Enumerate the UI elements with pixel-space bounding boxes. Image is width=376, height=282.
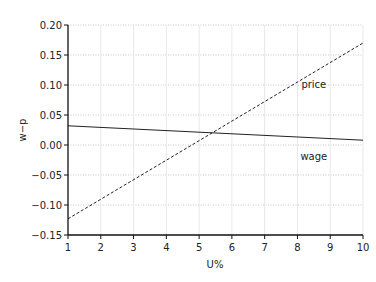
- x-ticks: 12345678910: [65, 235, 370, 253]
- y-tick-label: 0.20: [40, 20, 62, 31]
- y-tick-label: −0.05: [31, 170, 62, 181]
- gridlines: [68, 25, 363, 235]
- x-tick-label: 3: [130, 242, 136, 253]
- series-wage-line: [68, 126, 363, 140]
- x-tick-label: 9: [327, 242, 333, 253]
- y-ticks: 0.200.150.100.050.00−0.05−0.10−0.15: [31, 20, 68, 241]
- x-tick-label: 4: [163, 242, 169, 253]
- x-tick-label: 7: [261, 242, 267, 253]
- axes: [68, 25, 363, 235]
- y-tick-label: 0.00: [40, 140, 62, 151]
- y-tick-label: 0.10: [40, 80, 62, 91]
- x-tick-label: 8: [294, 242, 300, 253]
- x-tick-label: 6: [229, 242, 235, 253]
- y-tick-label: 0.05: [40, 110, 62, 121]
- series-price-line: [68, 43, 363, 219]
- series-labels: pricewage: [300, 79, 327, 162]
- series-lines: [68, 43, 363, 219]
- x-tick-label: 2: [98, 242, 104, 253]
- x-tick-label: 1: [65, 242, 71, 253]
- x-axis-label: U%: [207, 259, 224, 270]
- y-tick-label: 0.15: [40, 50, 62, 61]
- x-tick-label: 10: [357, 242, 370, 253]
- y-tick-label: −0.10: [31, 200, 62, 211]
- y-axis-label: w−p: [17, 119, 28, 142]
- series-price-label: price: [301, 79, 326, 90]
- y-tick-label: −0.15: [31, 230, 62, 241]
- chart: 0.200.150.100.050.00−0.05−0.10−0.15 1234…: [0, 0, 376, 282]
- x-tick-label: 5: [196, 242, 202, 253]
- series-wage-label: wage: [300, 151, 327, 162]
